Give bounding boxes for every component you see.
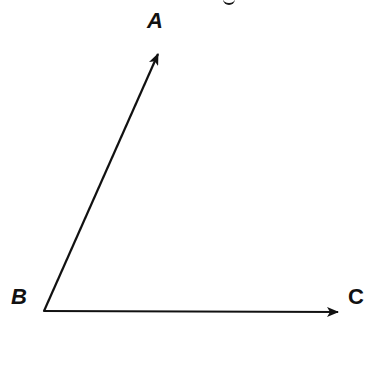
vertex-b-point <box>43 310 45 312</box>
point-label-c: C <box>348 286 364 308</box>
point-label-a: A <box>147 10 163 32</box>
ray-ba <box>44 54 158 311</box>
point-label-b: B <box>11 286 27 308</box>
angle-diagram <box>0 0 390 365</box>
ray-bc <box>44 311 338 312</box>
